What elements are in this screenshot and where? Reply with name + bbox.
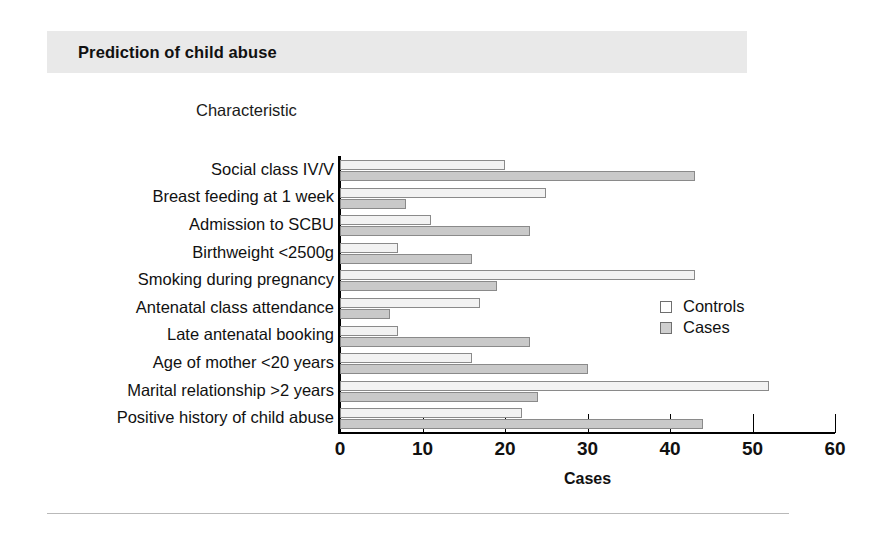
bar-cases — [340, 337, 530, 347]
legend-item: Cases — [660, 317, 744, 338]
x-axis-tick-label: 20 — [494, 438, 515, 460]
bar-cases — [340, 171, 695, 181]
legend-label: Controls — [683, 297, 744, 316]
figure-page: Prediction of child abuse Characteristic… — [0, 0, 890, 541]
bar-row — [340, 184, 835, 212]
legend-swatch-icon — [660, 301, 672, 313]
y-axis-tick-label: Age of mother <20 years — [153, 354, 334, 371]
legend-item: Controls — [660, 296, 744, 317]
y-axis-tick-label: Antenatal class attendance — [136, 299, 334, 316]
bar-cases — [340, 392, 538, 402]
y-axis-tick-label: Admission to SCBU — [189, 216, 334, 233]
bar-cases — [340, 281, 497, 291]
bar-row — [340, 266, 835, 294]
x-axis-tick-labels: 0102030405060 — [340, 438, 835, 462]
bar-controls — [340, 188, 546, 198]
bar-controls — [340, 270, 695, 280]
bar-cases — [340, 309, 390, 319]
bar-cases — [340, 226, 530, 236]
x-axis-title: Cases — [340, 470, 835, 488]
y-axis-tick-label: Late antenatal booking — [167, 326, 334, 343]
bar-controls — [340, 408, 522, 418]
bar-controls — [340, 353, 472, 363]
bottom-divider — [47, 513, 789, 514]
x-axis-tick-label: 10 — [412, 438, 433, 460]
x-axis-tick-label: 40 — [659, 438, 680, 460]
bar-controls — [340, 215, 431, 225]
bar-row — [340, 156, 835, 184]
x-axis-tick — [835, 414, 836, 433]
legend-label: Cases — [683, 318, 730, 337]
x-axis-tick-label: 60 — [824, 438, 845, 460]
bar-row — [340, 211, 835, 239]
bar-controls — [340, 160, 505, 170]
bar-controls — [340, 326, 398, 336]
plot-area — [340, 156, 835, 432]
bar-row — [340, 377, 835, 405]
bar-controls — [340, 243, 398, 253]
bar-row — [340, 404, 835, 432]
bar-cases — [340, 364, 588, 374]
y-axis-tick-label: Positive history of child abuse — [117, 409, 334, 426]
bar-controls — [340, 298, 480, 308]
y-axis-tick-label: Breast feeding at 1 week — [152, 188, 334, 205]
y-axis-tick-label: Marital relationship >2 years — [127, 382, 334, 399]
y-axis-tick-label: Social class IV/V — [211, 161, 334, 178]
bar-row — [340, 322, 835, 350]
x-axis-tick-label: 30 — [577, 438, 598, 460]
y-axis-tick-labels: Social class IV/VBreast feeding at 1 wee… — [40, 156, 338, 432]
y-axis-tick-label: Birthweight <2500g — [192, 244, 334, 261]
bar-cases — [340, 254, 472, 264]
bar-chart: Social class IV/VBreast feeding at 1 wee… — [0, 0, 890, 541]
chart-legend: ControlsCases — [660, 296, 744, 338]
bar-row — [340, 239, 835, 267]
bar-cases — [340, 419, 703, 429]
x-axis-tick-label: 50 — [742, 438, 763, 460]
y-axis-tick-label: Smoking during pregnancy — [138, 271, 334, 288]
bar-row — [340, 349, 835, 377]
bar-row — [340, 294, 835, 322]
bar-cases — [340, 199, 406, 209]
x-axis-tick-label: 0 — [335, 438, 346, 460]
legend-swatch-icon — [660, 322, 672, 334]
x-axis-line — [338, 432, 835, 434]
bar-controls — [340, 381, 769, 391]
